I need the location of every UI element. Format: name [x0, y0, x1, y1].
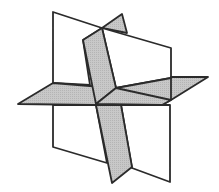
intersecting-planes-diagram: [0, 0, 219, 192]
